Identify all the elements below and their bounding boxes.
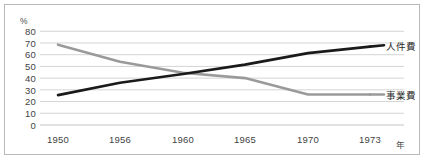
x-tick-1956: 1956	[97, 134, 143, 145]
y-tick-10: 10	[14, 108, 36, 119]
y-tick-50: 50	[14, 61, 36, 72]
gridlines	[40, 31, 404, 125]
series-label-business: 事業費	[386, 88, 416, 102]
x-axis-unit-label: 年	[396, 138, 405, 150]
series-label-personnel: 人件費	[386, 39, 416, 53]
y-tick-0: 0	[14, 120, 36, 131]
plot-area: % 80 70 60 50 40 30 20 10 0 1950 1956 19…	[0, 0, 425, 160]
y-tick-40: 40	[14, 73, 36, 84]
x-tick-1970: 1970	[285, 134, 331, 145]
y-tick-80: 80	[14, 26, 36, 37]
x-tick-1973: 1973	[347, 134, 393, 145]
y-tick-20: 20	[14, 96, 36, 107]
y-tick-30: 30	[14, 85, 36, 96]
chart-figure: % 80 70 60 50 40 30 20 10 0 1950 1956 19…	[0, 0, 425, 160]
y-axis-unit-label: %	[20, 16, 28, 26]
x-tick-1960: 1960	[160, 134, 206, 145]
series-line-personnel	[58, 47, 370, 96]
x-tick-1950: 1950	[35, 134, 81, 145]
legend-swatch-personnel	[370, 45, 384, 46]
y-tick-60: 60	[14, 49, 36, 60]
x-tick-1965: 1965	[222, 134, 268, 145]
y-tick-70: 70	[14, 38, 36, 49]
